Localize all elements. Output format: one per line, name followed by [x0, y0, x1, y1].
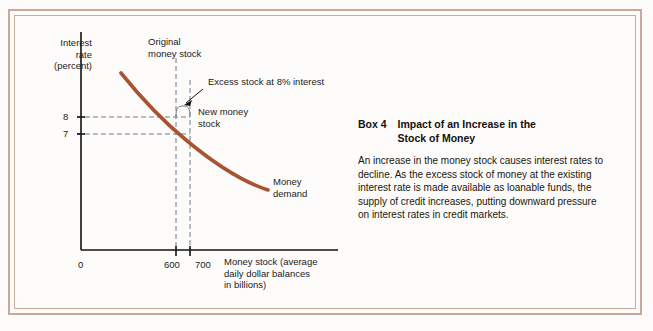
- money-demand-chart: Interest rate (percent) 8 7 0 600 700 Mo…: [18, 18, 338, 310]
- figure-page: Interest rate (percent) 8 7 0 600 700 Mo…: [0, 0, 653, 331]
- annotation-original-money-stock: Original money stock: [148, 36, 201, 59]
- excess-stock-brace: [176, 106, 190, 116]
- y-tick-label-8: 8: [63, 111, 68, 122]
- x-tick-label-600: 600: [164, 259, 180, 270]
- annotation-new-money-stock: New money stock: [198, 106, 248, 129]
- x-origin-label: 0: [78, 259, 83, 270]
- y-axis-title: Interest rate (percent): [30, 37, 92, 72]
- box-panel: Box 4 Impact of an Increase in the Stock…: [358, 118, 610, 222]
- annotation-excess-stock: Excess stock at 8% interest: [208, 76, 324, 88]
- x-axis-title: Money stock (average daily dollar balanc…: [224, 256, 344, 291]
- y-tick-label-7: 7: [63, 128, 68, 139]
- x-tick-label-700: 700: [195, 259, 211, 270]
- box-body-text: An increase in the money stock causes in…: [358, 154, 610, 222]
- box-title: Impact of an Increase in the Stock of Mo…: [398, 118, 610, 145]
- annotation-money-demand: Money demand: [273, 176, 307, 199]
- box-number: Box 4: [358, 118, 387, 145]
- box-heading: Box 4 Impact of an Increase in the Stock…: [358, 118, 610, 145]
- excess-stock-arrow-shaft: [186, 89, 203, 103]
- money-demand-curve: [121, 73, 268, 190]
